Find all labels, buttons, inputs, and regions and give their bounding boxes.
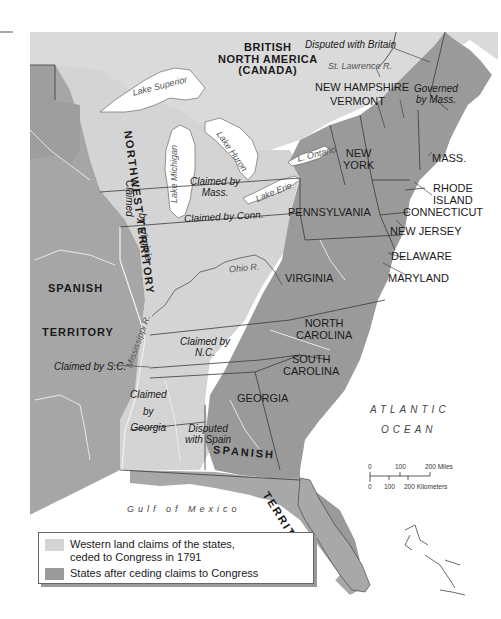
label-spanish-territory-west-1: SPANISH (48, 283, 103, 295)
label-new-york: NEW YORK (343, 148, 374, 171)
label-st-lawrence: St. Lawrence R. (328, 62, 392, 71)
legend-swatch-dark (45, 568, 64, 580)
label-line: Disputed (185, 424, 231, 435)
scale-km-0: 0 (368, 483, 372, 490)
label-line: Georgia (130, 423, 167, 434)
label-delaware: DELAWARE (391, 251, 452, 263)
label-georgia: GEORGIA (237, 393, 288, 405)
label-line: CAROLINA (296, 330, 352, 342)
label-line: BRITISH (218, 42, 318, 54)
scale-miles-0: 0 (368, 463, 372, 470)
label-british-north-america: BRITISH NORTH AMERICA (CANADA) (218, 42, 318, 77)
label-line: Claimed by (180, 337, 230, 348)
legend-item-states: States after ceding claims to Congress (45, 567, 258, 580)
label-line: by Mass. (414, 95, 458, 106)
map-legend: Western land claims of the states, ceded… (38, 532, 314, 584)
label-maryland: MARYLAND (388, 273, 449, 285)
label-line: Claimed (130, 390, 167, 401)
label-claimed-virginia-1: Claimed (123, 180, 134, 217)
label-north-carolina: NORTH CAROLINA (296, 318, 352, 341)
label-line: RHODE (433, 183, 473, 195)
label-lake-michigan: Lake Michigan (170, 145, 179, 203)
legend-label: Western land claims of the states, ceded… (70, 538, 235, 564)
label-claimed-mass: Claimed by Mass. (190, 177, 240, 198)
label-south-carolina: SOUTH CAROLINA (283, 354, 339, 377)
label-pennsylvania: PENNSYLVANIA (288, 207, 371, 219)
label-ocean: OCEAN (381, 425, 437, 436)
label-line: YORK (343, 160, 374, 172)
label-new-hampshire: NEW HAMPSHIRE (315, 82, 409, 94)
label-line: with Spain (185, 435, 231, 446)
label-line: SOUTH (283, 354, 339, 366)
legend-swatch-light (45, 539, 64, 551)
label-line: NORTH (296, 318, 352, 330)
label-atlantic: ATLANTIC (370, 405, 450, 416)
label-line: Claimed by (190, 177, 240, 188)
label-gulf-of-mexico: Gulf of Mexico (127, 505, 241, 514)
label-line: CAROLINA (283, 366, 339, 378)
label-claimed-nc: Claimed by N.C. (180, 337, 230, 358)
label-claimed-sc: Claimed by S.C. (54, 362, 126, 373)
legend-item-western-claims: Western land claims of the states, ceded… (45, 538, 235, 564)
label-line: ISLAND (433, 195, 473, 207)
label-claimed-virginia-2: by (136, 213, 147, 224)
label-claimed-georgia: Claimed by Georgia (130, 390, 167, 434)
label-line: (CANADA) (218, 65, 318, 77)
label-line: NEW (343, 148, 374, 160)
label-rhode-island: RHODE ISLAND (433, 183, 473, 206)
label-connecticut: CONNECTICUT (403, 207, 483, 219)
label-vermont: VERMONT (330, 96, 385, 108)
label-line: Mass. (190, 188, 240, 199)
label-governed-mass: Governed by Mass. (414, 84, 458, 105)
label-mass: MASS. (432, 153, 466, 165)
legend-label: States after ceding claims to Congress (70, 567, 258, 580)
label-new-jersey: NEW JERSEY (390, 226, 462, 238)
legend-label-line: Western land claims of the states, (70, 538, 235, 551)
label-line: N.C. (180, 348, 230, 359)
scale-miles-100: 100 (395, 463, 406, 470)
label-line: by (130, 407, 167, 418)
label-disputed-britain: Disputed with Britain (305, 40, 396, 51)
legend-label-line: ceded to Congress in 1791 (70, 551, 235, 564)
scale-km-200: 200 Kilometers (404, 483, 447, 490)
scale-km-100: 100 (384, 483, 395, 490)
label-line: Governed (414, 84, 458, 95)
label-spanish-territory-west-2: TERRITORY (42, 327, 114, 339)
label-virginia: VIRGINIA (285, 273, 333, 285)
label-disputed-spain: Disputed with Spain (185, 424, 231, 445)
scale-miles-200: 200 Miles (425, 463, 453, 470)
map-1791-land-claims: BRITISH NORTH AMERICA (CANADA) NORTHWEST… (0, 0, 501, 619)
